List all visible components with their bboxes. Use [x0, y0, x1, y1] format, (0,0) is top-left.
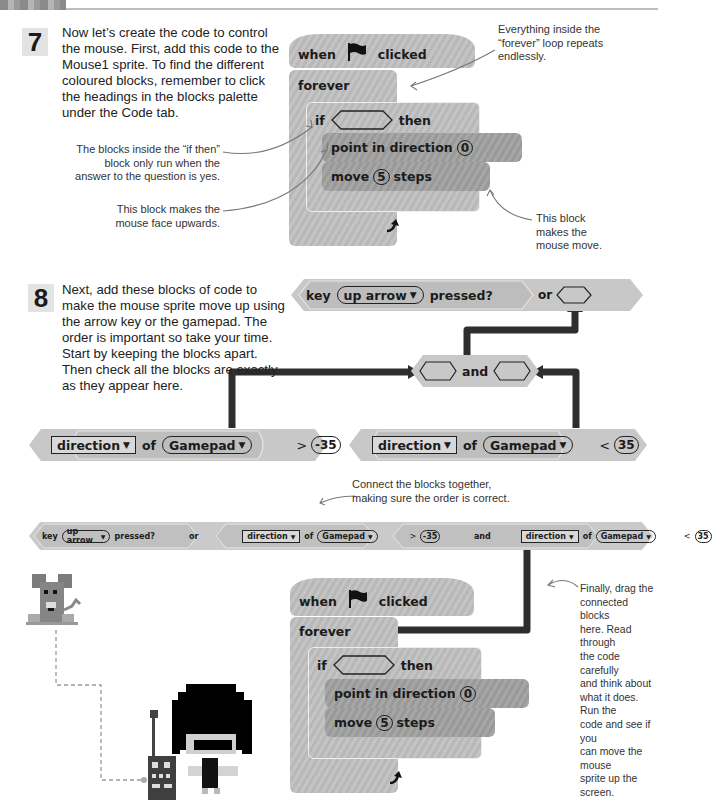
- dropdown-arrow-icon: ▼: [646, 533, 651, 540]
- compare-value-input[interactable]: 35: [614, 436, 639, 454]
- key-dropdown[interactable]: up arrow▼: [62, 530, 111, 543]
- block-label: if: [317, 658, 327, 673]
- note-connect: Connect the blocks together, making sure…: [352, 478, 572, 505]
- block-label: of: [142, 438, 156, 453]
- dropdown-arrow-icon: ▼: [410, 290, 417, 300]
- mouse-sprite: [26, 572, 90, 630]
- note-line: Finally, drag the: [580, 582, 658, 596]
- sensor-attribute-dropdown[interactable]: direction▼: [242, 530, 300, 543]
- sensor-attribute-dropdown[interactable]: direction▼: [372, 436, 457, 454]
- sensor-attribute-dropdown[interactable]: direction▼: [521, 530, 579, 543]
- dropdown-value: up arrow: [67, 527, 98, 545]
- dropdown-arrow-icon: ▼: [560, 440, 567, 450]
- operator-label: >: [410, 532, 417, 541]
- or-operator: or: [189, 532, 198, 541]
- note-final: Finally, drag the connected blocks here.…: [580, 582, 658, 800]
- direction-input[interactable]: 0: [460, 686, 476, 702]
- note-line: the code carefully: [580, 650, 658, 677]
- block-label: or: [538, 288, 552, 302]
- sensor-object-dropdown[interactable]: Gamepad▼: [596, 530, 656, 543]
- combined-block[interactable]: key up arrow▼ pressed? or direction▼ of …: [42, 521, 716, 551]
- note-line: Connect the blocks together,: [352, 478, 572, 492]
- dropdown-arrow-icon: ▼: [101, 533, 106, 540]
- compare-value-input[interactable]: 35: [695, 530, 712, 543]
- point-in-direction-block[interactable]: point in direction 0: [325, 679, 529, 708]
- step8-instructions: Next, add these blocks of code to make t…: [62, 282, 287, 394]
- or-operator: or: [538, 278, 552, 312]
- or-empty-slot[interactable]: [556, 286, 592, 304]
- block-label: and: [462, 364, 488, 379]
- or-block[interactable]: key up arrow▼ pressed?: [306, 278, 493, 312]
- dropdown-value: direction: [378, 438, 441, 453]
- steps-input[interactable]: 5: [376, 715, 392, 731]
- text-line: order is important so take your time.: [62, 330, 287, 346]
- loop-arrow-icon: [388, 770, 404, 786]
- dropdown-arrow-icon: ▼: [123, 440, 130, 450]
- note-line: connected blocks: [580, 596, 658, 623]
- block-label: clicked: [379, 594, 428, 609]
- block-label: when: [299, 594, 337, 609]
- sensor-object-dropdown[interactable]: Gamepad▼: [162, 436, 252, 454]
- note-line: sprite up the screen.: [580, 772, 658, 799]
- block-label: of: [463, 438, 477, 453]
- dropdown-arrow-icon: ▼: [239, 440, 246, 450]
- sensor-object-dropdown[interactable]: Gamepad▼: [317, 530, 377, 543]
- note-line: making sure the order is correct.: [352, 492, 572, 506]
- character-with-gamepad-sprite: [148, 684, 258, 806]
- operator-label: <: [599, 438, 609, 453]
- text-line: Then check all the blocks are exactly: [62, 362, 287, 378]
- note-line: here. Read through: [580, 623, 658, 650]
- block-label: key: [306, 288, 331, 303]
- boolean-slot[interactable]: [333, 655, 395, 675]
- move-steps-block[interactable]: move 5 steps: [325, 708, 495, 737]
- note-line: and think about: [580, 677, 658, 691]
- dropdown-value: up arrow: [344, 288, 407, 303]
- green-flag-icon: [347, 589, 369, 609]
- less-than-block[interactable]: direction▼ of Gamepad▼ < 35: [372, 428, 643, 462]
- dropdown-value: Gamepad: [322, 532, 365, 541]
- note-line: can move the mouse: [580, 745, 658, 772]
- block-label: move: [334, 715, 372, 730]
- operator-label: <: [684, 532, 691, 541]
- block-label: then: [401, 658, 433, 673]
- block-label: of: [304, 532, 313, 541]
- block-label: forever: [299, 624, 350, 639]
- text-line: make the mouse sprite move up using: [62, 298, 287, 314]
- and-block[interactable]: and: [462, 354, 488, 388]
- block-label: pressed?: [114, 532, 154, 541]
- greater-than-block[interactable]: direction▼ of Gamepad▼ > -35: [51, 428, 345, 462]
- dropdown-value: direction: [247, 532, 287, 541]
- compare-value-input[interactable]: -35: [311, 436, 341, 454]
- forever-block[interactable]: forever: [290, 617, 350, 645]
- step-number-8: 8: [28, 284, 54, 312]
- text-line: as they appear here.: [62, 378, 287, 394]
- dropdown-arrow-icon: ▼: [291, 533, 296, 540]
- dropdown-arrow-icon: ▼: [368, 533, 373, 540]
- dropdown-value: direction: [57, 438, 120, 453]
- dropdown-value: direction: [526, 532, 566, 541]
- text-line: the arrow key or the gamepad. The: [62, 314, 287, 330]
- block-label: key: [42, 532, 58, 541]
- dropdown-arrow-icon: ▼: [569, 533, 574, 540]
- when-flag-clicked-block[interactable]: when clicked: [290, 578, 474, 616]
- note-line: code and see if you: [580, 718, 658, 745]
- dropdown-value: Gamepad: [601, 532, 644, 541]
- dropdown-value: Gamepad: [169, 438, 236, 453]
- compare-value-input[interactable]: -35: [420, 530, 440, 543]
- dropdown-arrow-icon: ▼: [444, 440, 451, 450]
- dropdown-value: Gamepad: [490, 438, 557, 453]
- text-line: Start by keeping the blocks apart.: [62, 346, 287, 362]
- text-line: Next, add these blocks of code to: [62, 282, 287, 298]
- key-dropdown[interactable]: up arrow▼: [337, 286, 424, 304]
- block-label: pressed?: [430, 288, 493, 303]
- and-operator: and: [474, 532, 491, 541]
- block-label: point in direction: [334, 686, 456, 701]
- note-line: what it does. Run the: [580, 691, 658, 718]
- if-then-block[interactable]: if then: [308, 649, 433, 681]
- sensor-object-dropdown[interactable]: Gamepad▼: [483, 436, 573, 454]
- sensor-attribute-dropdown[interactable]: direction▼: [51, 436, 136, 454]
- operator-label: >: [296, 438, 306, 453]
- block-label: of: [583, 532, 592, 541]
- block-label: steps: [397, 715, 435, 730]
